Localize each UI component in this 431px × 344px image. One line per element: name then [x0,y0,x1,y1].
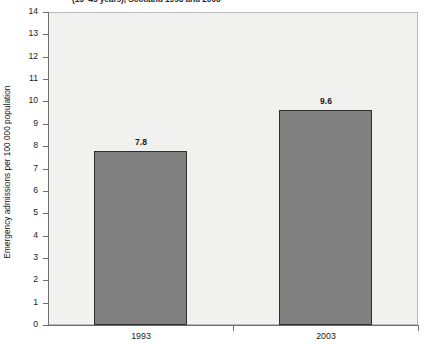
y-axis-tick-label: 6 [12,186,38,195]
y-axis-tick-label: 5 [12,208,38,217]
y-axis-tick [43,124,49,125]
bar [279,110,372,325]
y-axis-tick [43,34,49,35]
x-axis-tick [418,326,419,331]
x-axis-category-label: 1993 [101,331,181,342]
y-axis-tick [43,191,49,192]
y-axis-tick-label: 12 [12,52,38,61]
y-axis-tick [43,12,49,13]
y-axis-tick [43,169,49,170]
bar [94,151,187,325]
y-axis-tick-label: 9 [12,119,38,128]
y-axis-tick-label: 3 [12,253,38,262]
x-axis-category-label: 2003 [286,331,366,342]
y-axis-tick [43,213,49,214]
y-axis-tick-label: 7 [12,164,38,173]
y-axis-tick-label: 11 [12,74,38,83]
y-axis-tick [43,280,49,281]
x-axis-tick [233,326,234,331]
chart-title: (15–45 years), Scotland 1993 and 2003 [72,0,412,5]
y-axis-tick [43,79,49,80]
bar-value-label: 7.8 [111,137,171,147]
bar-value-label: 9.6 [296,96,356,106]
y-axis-tick-label: 4 [12,231,38,240]
y-axis-tick-label: 1 [12,298,38,307]
y-axis-tick [43,303,49,304]
y-axis-tick [43,57,49,58]
y-axis-tick-label: 0 [12,320,38,329]
y-axis-tick [43,325,49,326]
y-axis-tick-label: 2 [12,275,38,284]
y-axis-tick [43,101,49,102]
y-axis-tick-label: 8 [12,141,38,150]
y-axis-tick [43,236,49,237]
y-axis-tick-label: 14 [12,7,38,16]
y-axis-tick-label: 10 [12,96,38,105]
y-axis-tick [43,258,49,259]
y-axis-tick-label: 13 [12,29,38,38]
y-axis-tick [43,146,49,147]
bar-chart-figure: (15–45 years), Scotland 1993 and 2003 Em… [0,0,431,344]
